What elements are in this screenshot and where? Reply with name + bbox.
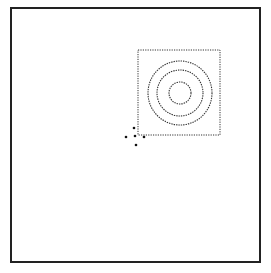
data-point <box>125 136 128 139</box>
dotted-selection-box <box>138 50 220 135</box>
diagram-canvas <box>0 0 271 273</box>
data-point <box>143 136 146 139</box>
target-ring-2 <box>157 70 203 116</box>
data-point <box>134 135 137 138</box>
target-ring-3 <box>148 61 212 125</box>
target-ring-1 <box>169 82 191 104</box>
concentric-target-circles <box>148 61 212 125</box>
data-point <box>133 127 136 130</box>
data-point <box>135 144 138 147</box>
scatter-points <box>125 127 146 147</box>
